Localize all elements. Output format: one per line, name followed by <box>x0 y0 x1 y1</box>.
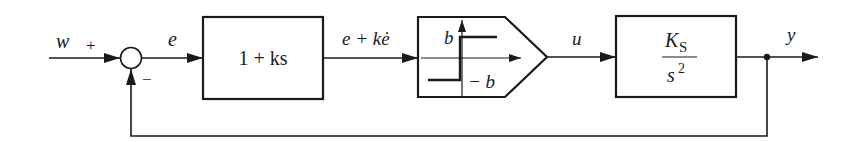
block-diagram: w + − e 1 + ks e + kė b − b u K S <box>0 0 863 142</box>
minus-sign: − <box>142 70 152 89</box>
plant-denominator-superscript: 2 <box>678 61 685 76</box>
plant-numerator-subscript: S <box>679 39 687 55</box>
label-w: w <box>56 30 70 52</box>
plus-sign: + <box>86 36 96 55</box>
label-y: y <box>785 24 796 45</box>
output-signal-y: y <box>736 24 818 60</box>
plant-numerator-K: K <box>664 29 680 51</box>
control-signal-u: u <box>547 28 616 57</box>
relay-block: b − b <box>418 17 547 97</box>
label-b: b <box>444 27 454 48</box>
summing-junction <box>121 48 142 69</box>
plant-denominator-s: s <box>667 64 675 86</box>
plant-block: K S s 2 <box>616 16 736 97</box>
label-e-plus-k-edot: e + kė <box>342 28 390 49</box>
controller-transfer-function: 1 + ks <box>238 47 287 69</box>
label-e: e <box>168 28 177 50</box>
input-signal-w: w + <box>49 30 120 58</box>
error-signal-e: e <box>142 28 203 58</box>
label-minus-b: − b <box>468 71 495 92</box>
label-u: u <box>572 28 582 49</box>
pd-signal: e + kė <box>323 28 418 58</box>
controller-block: 1 + ks <box>203 17 323 99</box>
